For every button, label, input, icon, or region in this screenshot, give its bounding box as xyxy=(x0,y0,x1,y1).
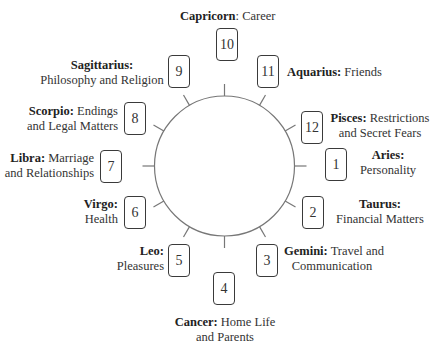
house-meaning-cont: and Relationships xyxy=(5,166,94,180)
house-meaning: Travel and xyxy=(328,244,384,258)
house-label-8: Scorpio: Endings and Legal Matters xyxy=(18,104,118,134)
house-cusp-ticks xyxy=(143,84,307,248)
house-meaning-cont: and Legal Matters xyxy=(27,119,118,133)
sign-name: Capricorn xyxy=(180,9,236,23)
house-label-2: Taurus: Financial Matters xyxy=(330,197,430,227)
house-label-9: Sagittarius: Philosophy and Religion xyxy=(40,58,164,88)
house-meaning: Financial Matters xyxy=(336,212,424,226)
house-card-10: 10 xyxy=(216,28,238,61)
house-label-12: Pisces: Restrictions and Secret Fears xyxy=(328,111,432,141)
cusp-tick xyxy=(153,125,163,131)
house-meaning-cont: and Secret Fears xyxy=(339,126,422,140)
house-label-7: Libra: Marriage and Relationships xyxy=(0,151,94,181)
sign-name: Scorpio: xyxy=(29,104,74,118)
house-meaning: Philosophy and Religion xyxy=(40,73,164,87)
house-meaning: Friends xyxy=(341,65,382,79)
house-card-3: 3 xyxy=(256,244,278,277)
house-meaning: Endings xyxy=(74,104,118,118)
cusp-tick xyxy=(184,227,190,237)
cusp-tick xyxy=(153,201,163,207)
house-meaning: Pleasures xyxy=(117,259,164,273)
sign-name: Cancer: xyxy=(175,315,218,329)
cusp-tick xyxy=(260,227,266,237)
house-meaning-cont: and Parents xyxy=(196,330,254,344)
cusp-tick xyxy=(260,95,266,105)
house-label-3: Gemini: Travel and Communication xyxy=(284,244,380,274)
house-card-5: 5 xyxy=(168,244,190,277)
house-card-11: 11 xyxy=(257,55,279,88)
cusp-tick xyxy=(285,201,295,207)
house-card-2: 2 xyxy=(302,196,324,229)
sign-name: Sagittarius: xyxy=(71,58,134,72)
house-label-10: Capricorn: Career xyxy=(180,9,275,24)
sign-name: Gemini: xyxy=(284,244,328,258)
house-circle xyxy=(155,96,295,236)
cusp-tick xyxy=(285,125,295,131)
sign-name: Aries: xyxy=(372,148,405,162)
house-card-12: 12 xyxy=(301,111,323,144)
sign-name: Libra: xyxy=(10,151,45,165)
house-meaning: Personality xyxy=(360,163,416,177)
sign-name: Taurus: xyxy=(359,197,401,211)
house-label-6: Virgo: Health xyxy=(60,197,118,227)
house-label-11: Aquarius: Friends xyxy=(287,65,382,80)
cusp-tick xyxy=(184,95,190,105)
sign-name: Virgo: xyxy=(84,197,118,211)
house-card-9: 9 xyxy=(168,55,190,88)
house-meaning-cont: Communication xyxy=(292,259,373,273)
house-card-6: 6 xyxy=(124,196,146,229)
house-meaning: Home Life xyxy=(218,315,276,329)
house-card-4: 4 xyxy=(213,272,235,305)
house-label-1: Aries: Personality xyxy=(352,148,424,178)
sign-name: Pisces: xyxy=(331,111,367,125)
house-card-7: 7 xyxy=(100,150,122,183)
house-meaning: : Career xyxy=(236,9,276,23)
house-card-8: 8 xyxy=(124,102,146,135)
house-card-1: 1 xyxy=(325,148,347,181)
house-meaning: Restrictions xyxy=(367,111,430,125)
house-label-4: Cancer: Home Life and Parents xyxy=(170,315,280,345)
house-label-5: Leo: Pleasures xyxy=(100,244,164,274)
sign-name: Aquarius: xyxy=(287,65,341,79)
house-meaning: Marriage xyxy=(45,151,94,165)
sign-name: Leo: xyxy=(140,244,164,258)
house-meaning: Health xyxy=(85,212,118,226)
